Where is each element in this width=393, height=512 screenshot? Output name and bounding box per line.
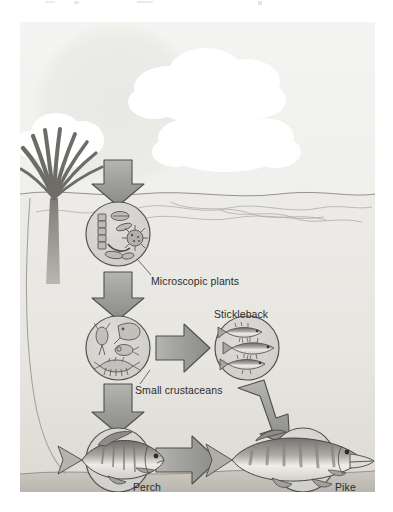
label-pike: Pike [335, 481, 356, 492]
node-small-crustaceans [86, 316, 150, 380]
diatom-chain [98, 214, 106, 249]
node-stickleback [215, 316, 279, 380]
label-perch: Perch [133, 481, 161, 492]
scan-speck [137, 1, 153, 3]
node-microscopic-plants [86, 202, 150, 266]
label-small-crustaceans: Small crustaceans [135, 384, 222, 396]
label-stickleback: Stickleback [214, 308, 268, 320]
scan-speck [45, 1, 55, 3]
food-chain-scene: Microscopic plants Stickleback Small cru… [20, 22, 375, 492]
water-body [20, 192, 375, 474]
spiky-alga [122, 225, 148, 251]
pike-eye [345, 450, 350, 455]
illustration-page: Microscopic plants Stickleback Small cru… [0, 0, 393, 512]
label-microscopic-plants: Microscopic plants [151, 275, 239, 287]
scan-speck [74, 1, 79, 4]
perch-eye [154, 454, 159, 459]
scan-speck [258, 1, 262, 5]
